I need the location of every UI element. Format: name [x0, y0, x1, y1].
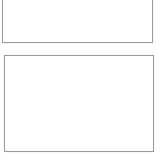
bottom-panel — [4, 55, 154, 152]
top-panel-content — [3, 0, 152, 42]
bottom-panel-content — [5, 56, 153, 151]
top-panel — [2, 0, 153, 43]
screen-background — [0, 0, 164, 166]
